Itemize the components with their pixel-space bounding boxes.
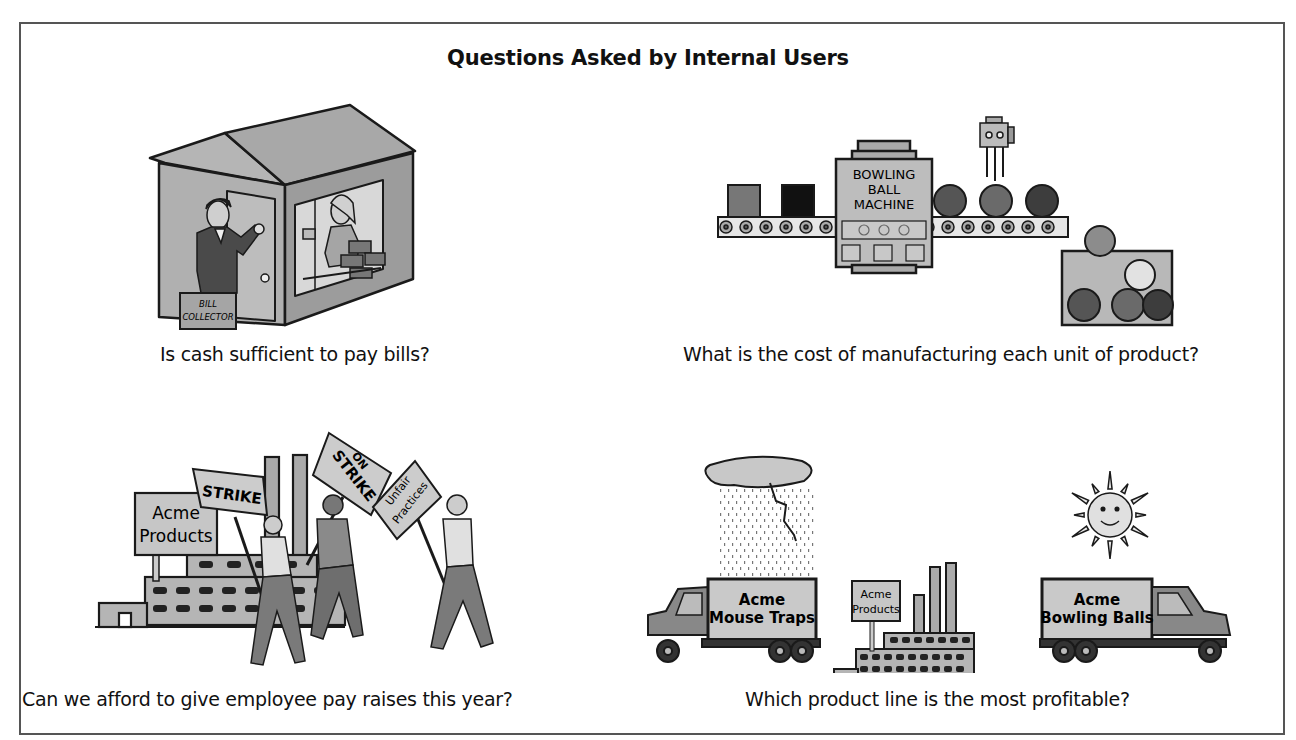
factory-window (944, 666, 952, 672)
sun-ray (1092, 484, 1099, 494)
rain-drop (796, 495, 797, 498)
briefcase-label-2: COLLECTOR (182, 312, 233, 322)
rain-drop (764, 507, 765, 510)
rain-drop (736, 525, 737, 528)
roller-hub (784, 225, 788, 229)
raw-block-gray (728, 185, 760, 217)
factory-window (872, 666, 880, 672)
rain-drop (728, 489, 729, 492)
roller-hub (764, 225, 768, 229)
rain-drop (796, 543, 797, 546)
rain-drop (792, 549, 793, 552)
rain-drop (796, 555, 797, 558)
rain-drop (728, 501, 729, 504)
rain-drop (756, 543, 757, 546)
factory-window (199, 605, 213, 612)
rain-drop (752, 489, 753, 492)
rain-drop (768, 513, 769, 516)
factory-window (932, 654, 940, 660)
rain-drop (728, 525, 729, 528)
rain-drop (796, 507, 797, 510)
rain-drop (768, 561, 769, 564)
rain-drop (760, 501, 761, 504)
factory-window (884, 666, 892, 672)
caption-manufacturing: What is the cost of manufacturing each u… (683, 343, 1199, 365)
rain-drop (748, 495, 749, 498)
factory-window (176, 587, 190, 594)
rain-drop (800, 489, 801, 492)
sun-ray (1121, 484, 1128, 494)
sun-ray (1136, 513, 1146, 517)
rain-drops (720, 489, 813, 582)
rain-drop (792, 513, 793, 516)
rain-drop (776, 489, 777, 492)
rain-drop (740, 567, 741, 570)
truck1-label-2: Mouse Traps (709, 609, 815, 627)
machine-label-3: MACHINE (854, 197, 915, 212)
rain-drop (808, 573, 809, 576)
rain-drop (724, 507, 725, 510)
rain-drop (740, 543, 741, 546)
rain-drop (756, 531, 757, 534)
rain-drop (732, 567, 733, 570)
rain-drop (776, 549, 777, 552)
factory-window (914, 637, 922, 643)
sun-ray (1108, 471, 1112, 489)
rain-drop (804, 507, 805, 510)
rain-drop (800, 549, 801, 552)
roller-hub (1006, 225, 1010, 229)
rain-drop (720, 573, 721, 576)
roller-hub (724, 225, 728, 229)
machine-label-2: BALL (868, 182, 901, 197)
rain-drop (752, 561, 753, 564)
rain-drop (804, 531, 805, 534)
factory-window (896, 654, 904, 660)
bowling-ball (1026, 185, 1058, 217)
rain-drop (736, 513, 737, 516)
rain-drop (756, 507, 757, 510)
rain-drop (768, 489, 769, 492)
rain-drop (752, 513, 753, 516)
rain-drop (776, 537, 777, 540)
roller-hub (986, 225, 990, 229)
rain-drop (744, 537, 745, 540)
rain-drop (728, 573, 729, 576)
truck1-label-1: Acme (739, 591, 785, 609)
storm-cloud-icon (705, 457, 811, 487)
briefcase: BILL COLLECTOR (180, 293, 236, 329)
machine-label-1: BOWLING (853, 167, 916, 182)
rain-drop (792, 489, 793, 492)
rain-drop (788, 567, 789, 570)
rain-drop (788, 519, 789, 522)
rain-drop (788, 531, 789, 534)
rain-drop (812, 555, 813, 558)
rain-drop (748, 567, 749, 570)
rain-drop (752, 501, 753, 504)
roller-hub (744, 225, 748, 229)
bowling-ball (980, 185, 1012, 217)
door-knob (261, 274, 269, 282)
sun-ray (1108, 541, 1112, 559)
factory-window (227, 561, 241, 568)
rain-drop (752, 573, 753, 576)
roller-hub (804, 225, 808, 229)
rain-drop (772, 507, 773, 510)
factory-window (884, 654, 892, 660)
caption-profitable: Which product line is the most profitabl… (745, 688, 1130, 710)
rain-drop (772, 555, 773, 558)
rain-drop (760, 537, 761, 540)
rain-drop (784, 537, 785, 540)
rain-drop (736, 489, 737, 492)
rain-drop (812, 519, 813, 522)
caption-raises: Can we afford to give employee pay raise… (22, 688, 513, 710)
rain-drop (748, 555, 749, 558)
sun-ray (1092, 536, 1099, 546)
rain-drop (768, 573, 769, 576)
rain-drop (720, 513, 721, 516)
rain-drop (784, 525, 785, 528)
rain-drop (784, 573, 785, 576)
bowling-ball (1125, 260, 1155, 290)
rain-drop (764, 555, 765, 558)
rain-drop (760, 549, 761, 552)
rain-drop (800, 537, 801, 540)
